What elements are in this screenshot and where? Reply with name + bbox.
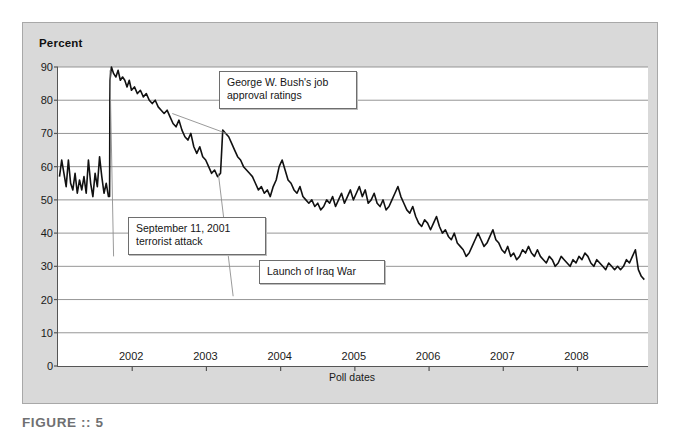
x-tick-label: 2007 (490, 350, 514, 362)
iraq-war-callout: Launch of Iraq War (259, 260, 385, 284)
bush-approval-callout: George W. Bush's job approval ratings (219, 71, 357, 109)
y-tick-label: 10 (27, 327, 53, 339)
sept11-callout: September 11, 2001 terrorist attack (128, 217, 266, 255)
y-tick-label: 70 (27, 127, 53, 139)
y-tick-label: 0 (27, 360, 53, 372)
figure-caption: FIGURE :: 5 (22, 415, 104, 430)
x-tick-label: 2008 (564, 350, 588, 362)
y-axis-ticks: 0102030405060708090 (25, 67, 53, 366)
x-tick-label: 2003 (193, 350, 217, 362)
y-tick-label: 80 (27, 94, 53, 106)
y-tick-label: 60 (27, 161, 53, 173)
x-tick-label: 2004 (267, 350, 291, 362)
y-tick-label: 20 (27, 294, 53, 306)
y-tick-label: 50 (27, 194, 53, 206)
y-tick-label: 30 (27, 260, 53, 272)
x-axis-title: Poll dates (57, 371, 647, 383)
y-tick-label: 90 (27, 61, 53, 73)
x-tick-label: 2006 (416, 350, 440, 362)
x-tick-label: 2002 (119, 350, 143, 362)
y-tick-label: 40 (27, 227, 53, 239)
figure-panel: Percent 0102030405060708090 200220032004… (22, 22, 658, 404)
x-tick-label: 2005 (342, 350, 366, 362)
